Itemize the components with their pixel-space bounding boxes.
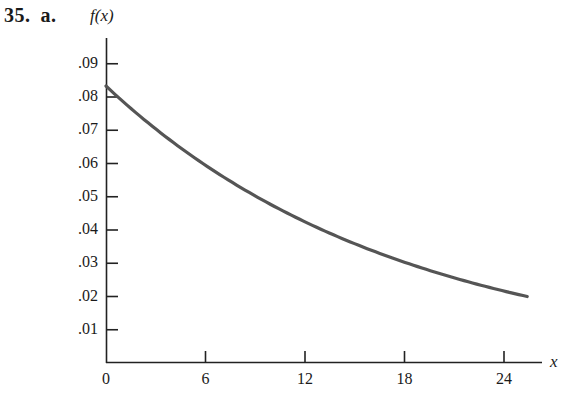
y-ticks (106, 64, 118, 330)
x-ticks (206, 351, 505, 363)
chart-plot (0, 0, 561, 407)
density-curve (106, 86, 527, 296)
